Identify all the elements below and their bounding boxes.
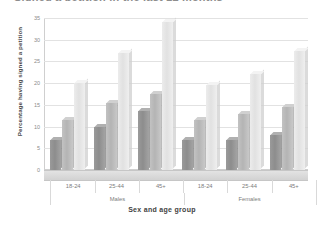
category-label-25-44: 25-44 <box>227 180 272 193</box>
bar-face <box>118 53 129 170</box>
bar-group <box>44 18 88 170</box>
bar[interactable] <box>50 140 61 170</box>
y-tick-10: 10 <box>18 124 40 130</box>
bar-face <box>138 111 149 170</box>
bar-face <box>106 103 117 170</box>
bar-face <box>50 140 61 170</box>
bar-group <box>220 18 264 170</box>
bar[interactable] <box>294 51 305 170</box>
y-tick-5: 5 <box>18 145 40 151</box>
bar-group <box>88 18 132 170</box>
category-axis-row: 18-2425-4445+18-2425-4445+ <box>50 180 316 193</box>
bar-face <box>282 107 293 170</box>
y-tick-0: 0 <box>18 167 40 173</box>
bar-face <box>206 85 217 170</box>
bar[interactable] <box>206 85 217 170</box>
sex-group-axis-row: MalesFemales <box>50 193 316 205</box>
bar[interactable] <box>150 94 161 170</box>
bar[interactable] <box>194 120 205 170</box>
y-tick-25: 25 <box>18 58 40 64</box>
bar-face <box>194 120 205 170</box>
bar-face <box>226 140 237 170</box>
bar-face <box>62 120 73 170</box>
bar-side <box>305 46 308 168</box>
bar-face <box>250 74 261 170</box>
bar-face <box>294 51 305 170</box>
bar-face <box>150 94 161 170</box>
category-label-18-24: 18-24 <box>50 180 96 193</box>
bar-group <box>132 18 176 170</box>
bar-face <box>74 83 85 170</box>
x-axis-title: Sex and age group <box>0 206 324 213</box>
category-label-25-44: 25-44 <box>94 180 139 193</box>
y-tick-35: 35 <box>18 15 40 21</box>
sex-group-label-Males: Males <box>50 193 185 205</box>
category-label-45+: 45+ <box>272 180 317 193</box>
bar-face <box>94 127 105 170</box>
bar[interactable] <box>282 107 293 170</box>
bar[interactable] <box>74 83 85 170</box>
y-tick-20: 20 <box>18 80 40 86</box>
y-tick-15: 15 <box>18 102 40 108</box>
bar-group <box>264 18 308 170</box>
sex-group-label-Females: Females <box>183 193 317 205</box>
y-tick-30: 30 <box>18 37 40 43</box>
bar[interactable] <box>106 103 117 170</box>
bar[interactable] <box>226 140 237 170</box>
bar[interactable] <box>182 140 193 170</box>
bar[interactable] <box>162 22 173 170</box>
bar-face <box>182 140 193 170</box>
y-axis-tick-labels: 35302520151050 <box>14 18 40 170</box>
bar[interactable] <box>62 120 73 170</box>
category-label-45+: 45+ <box>139 180 184 193</box>
bar[interactable] <box>118 53 129 170</box>
bar-face <box>162 22 173 170</box>
bar[interactable] <box>94 127 105 170</box>
category-label-18-24: 18-24 <box>183 180 228 193</box>
bar-face <box>238 114 249 170</box>
bar-face <box>270 135 281 170</box>
bar[interactable] <box>250 74 261 170</box>
chart-figure: Signed a petition in the last 12 months … <box>0 0 324 226</box>
bar[interactable] <box>238 114 249 170</box>
bar[interactable] <box>270 135 281 170</box>
bar[interactable] <box>138 111 149 170</box>
bar-group <box>176 18 220 170</box>
plot-area <box>44 18 308 170</box>
chart-title: Signed a petition in the last 12 months <box>14 0 223 1</box>
